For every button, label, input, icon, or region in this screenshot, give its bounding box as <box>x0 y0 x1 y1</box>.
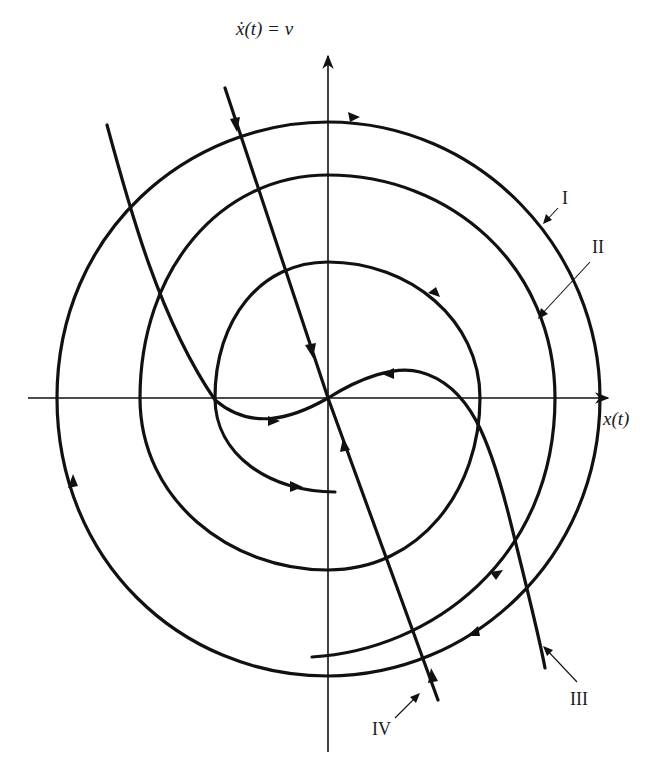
arrow-icon <box>467 626 480 636</box>
label-leader-arrows <box>410 214 553 703</box>
trajectory-label-II: II <box>592 237 604 258</box>
trajectory-II-spiral <box>140 175 555 657</box>
x-axis-label: x(t) <box>603 408 629 430</box>
trajectory-label-I: I <box>562 188 568 209</box>
trajectory-label-IV: IV <box>372 719 391 740</box>
y-axis-label: ẋ(t) = v <box>236 18 293 40</box>
arrow-icon <box>348 112 360 122</box>
trajectory-label-III: III <box>570 689 588 710</box>
arrow-icon <box>428 668 438 683</box>
phase-portrait-diagram <box>0 0 671 763</box>
arrow-icon <box>382 368 394 379</box>
arrow-icon <box>290 481 303 492</box>
